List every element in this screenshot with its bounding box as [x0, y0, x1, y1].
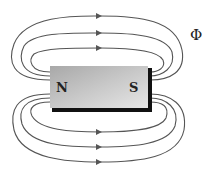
south-pole-label: S — [129, 80, 138, 95]
arrow-right-icon — [96, 144, 102, 150]
arrow-right-icon — [96, 159, 102, 165]
arrow-right-icon — [96, 30, 102, 36]
bar-magnet: N S — [50, 66, 152, 112]
flux-symbol-label: Φ — [190, 26, 202, 44]
north-pole-label: N — [56, 80, 68, 95]
bar-magnet-diagram: N S Φ — [0, 0, 214, 174]
arrow-right-icon — [96, 45, 102, 51]
arrow-right-icon — [96, 13, 102, 19]
arrow-right-icon — [96, 129, 102, 135]
